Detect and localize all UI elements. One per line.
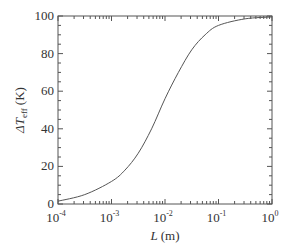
line-chart: 020406080100 10-410-310-210-1100 L(m) ΔT… [0,0,291,246]
y-tick-label: 20 [41,158,54,173]
axis-ticks [58,16,272,204]
x-tick-labels: 10-410-310-210-1100 [46,209,278,225]
y-tick-label: 60 [41,83,54,98]
x-tick-label: 10-1 [207,209,227,225]
y-tick-label: 0 [48,196,55,211]
x-axis-title: L(m) [149,228,179,243]
x-tick-label: 100 [262,209,279,225]
y-axis-title: ΔTeff(K) [12,87,29,134]
y-tick-label: 80 [41,46,54,61]
y-tick-labels: 020406080100 [35,8,55,211]
x-tick-label: 10-4 [46,209,66,225]
plot-frame [58,16,272,204]
y-tick-label: 40 [41,121,54,136]
data-line [58,17,272,201]
y-tick-label: 100 [35,8,55,23]
x-tick-label: 10-2 [153,209,173,225]
x-tick-label: 10-3 [100,209,120,225]
